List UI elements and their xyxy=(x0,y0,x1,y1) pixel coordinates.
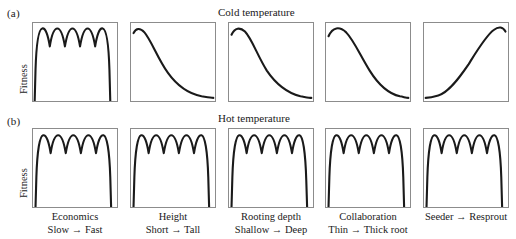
panel-a-collaboration[interactable] xyxy=(325,22,411,102)
x-gradient-collaboration: Thin → Thick root xyxy=(318,223,418,236)
curve-b-seeder-resprout xyxy=(424,129,508,207)
fitness-landscape-figure: (a) Cold temperature Fitness (b) Hot tem… xyxy=(0,0,516,239)
condition-label-hot: Hot temperature xyxy=(218,112,290,124)
panel-a-seeder-resprout[interactable] xyxy=(423,22,509,102)
x-trait-collaboration: Collaboration xyxy=(339,211,397,222)
panel-b-height[interactable] xyxy=(130,128,216,208)
x-axis-caption-collaboration: Collaboration Thin → Thick root xyxy=(318,210,418,236)
y-axis-label-row-b: Fitness xyxy=(18,168,29,198)
x-gradient-height: Short → Tall xyxy=(123,223,223,236)
panel-b-seeder-resprout[interactable] xyxy=(423,128,509,208)
row-label-a: (a) xyxy=(7,7,20,19)
curve-a-height xyxy=(131,23,215,101)
x-axis-caption-rooting-depth: Rooting depth Shallow → Deep xyxy=(221,210,321,236)
x-gradient-economics: Slow → Fast xyxy=(25,223,125,236)
y-axis-label-row-a: Fitness xyxy=(18,64,29,94)
panel-a-rooting-depth[interactable] xyxy=(228,22,314,102)
curve-a-collaboration xyxy=(326,23,410,101)
x-trait-economics: Economics xyxy=(52,211,99,222)
panel-b-economics[interactable] xyxy=(32,128,118,208)
curve-b-collaboration xyxy=(326,129,410,207)
panel-a-economics[interactable] xyxy=(32,22,118,102)
x-axis-caption-height: Height Short → Tall xyxy=(123,210,223,236)
x-trait-rooting-depth: Rooting depth xyxy=(241,211,301,222)
curve-a-economics xyxy=(33,23,117,101)
x-axis-caption-seeder-resprout: Seeder → Resprout xyxy=(416,210,516,223)
x-axis-caption-economics: Economics Slow → Fast xyxy=(25,210,125,236)
curve-b-economics xyxy=(33,129,117,207)
row-label-b: (b) xyxy=(7,115,20,127)
panel-b-collaboration[interactable] xyxy=(325,128,411,208)
panel-b-rooting-depth[interactable] xyxy=(228,128,314,208)
x-trait-seeder-resprout: Seeder → Resprout xyxy=(425,211,507,222)
curve-a-rooting-depth xyxy=(229,23,313,101)
curve-b-height xyxy=(131,129,215,207)
curve-b-rooting-depth xyxy=(229,129,313,207)
x-gradient-rooting-depth: Shallow → Deep xyxy=(221,223,321,236)
x-trait-height: Height xyxy=(159,211,188,222)
panel-a-height[interactable] xyxy=(130,22,216,102)
condition-label-cold: Cold temperature xyxy=(218,6,295,18)
curve-a-seeder-resprout xyxy=(424,23,508,101)
